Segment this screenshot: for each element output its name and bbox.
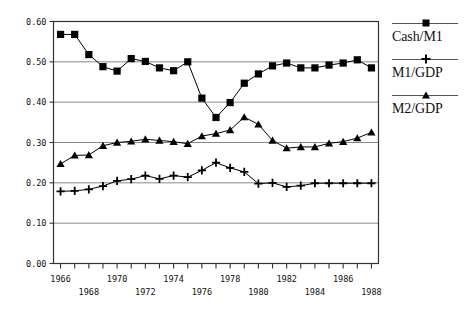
plus-marker-icon (127, 175, 135, 183)
square-marker-icon (368, 64, 375, 71)
x-tick-label-lower: 1980 (248, 287, 268, 297)
x-tick-label-lower: 1984 (305, 287, 325, 297)
square-marker-icon (212, 114, 219, 121)
plus-marker-icon (283, 183, 291, 191)
plus-marker-icon (353, 179, 361, 187)
chart-figure: 0.000.100.200.300.400.500.60 19661970197… (0, 0, 464, 318)
y-tick-label: 0.10 (26, 218, 46, 228)
square-marker-icon (227, 99, 234, 106)
plus-marker-icon (56, 187, 64, 195)
square-marker-icon (421, 18, 431, 28)
square-marker-icon (325, 61, 332, 68)
triangle-marker-icon (240, 113, 248, 120)
plus-marker-icon (339, 179, 347, 187)
series-line (61, 117, 372, 164)
legend-swatch-m2-gdp (392, 90, 458, 100)
x-tick-label-lower: 1972 (135, 287, 155, 297)
square-marker-icon (184, 58, 191, 65)
x-tick-label-upper: 1974 (163, 274, 183, 284)
plus-marker-icon (155, 175, 163, 183)
plus-marker-icon (184, 173, 192, 181)
square-marker-icon (85, 51, 92, 58)
plus-marker-icon (85, 185, 93, 193)
triangle-marker-icon (56, 160, 64, 167)
plus-marker-icon (367, 179, 375, 187)
gridlines-group (54, 22, 379, 224)
x-tick-label-upper: 1982 (276, 274, 296, 284)
legend-label-m1-gdp: M1/GDP (392, 64, 464, 81)
y-tick-label: 0.30 (26, 138, 46, 148)
x-tick-label-upper: 1970 (107, 274, 127, 284)
series-cash-m1 (57, 31, 375, 121)
plus-marker-icon (421, 54, 431, 64)
x-tick-label-lower: 1976 (192, 287, 212, 297)
triangle-marker-icon (141, 135, 149, 142)
legend-swatch-cash-m1 (392, 18, 458, 28)
plus-marker-icon (170, 171, 178, 179)
square-marker-icon (198, 95, 205, 102)
legend-label-m2-gdp: M2/GDP (392, 100, 464, 117)
square-marker-icon (340, 59, 347, 66)
legend-entry-m2-gdp: M2/GDP (392, 90, 464, 117)
plus-marker-icon (311, 179, 319, 187)
triangle-marker-icon (254, 120, 262, 127)
series-line (61, 34, 372, 117)
square-marker-icon (170, 67, 177, 74)
x-tick-label-upper: 1966 (50, 274, 70, 284)
square-marker-icon (311, 64, 318, 71)
square-marker-icon (269, 62, 276, 69)
square-marker-icon (113, 68, 120, 75)
triangle-marker-icon (367, 129, 375, 136)
x-axis-ticks (61, 264, 372, 269)
plus-marker-icon (113, 177, 121, 185)
y-axis-tick-labels: 0.000.100.200.300.400.500.60 (26, 17, 46, 269)
y-tick-label: 0.20 (26, 178, 46, 188)
triangle-marker-icon (421, 90, 431, 100)
series-line (61, 163, 372, 192)
plus-marker-icon (226, 164, 234, 172)
y-tick-label: 0.40 (26, 97, 46, 107)
legend-swatch-m1-gdp (392, 54, 458, 64)
square-marker-icon (128, 55, 135, 62)
triangle-marker-icon (353, 134, 361, 141)
y-tick-label: 0.00 (26, 259, 46, 269)
square-marker-icon (57, 31, 64, 38)
x-tick-label-lower: 1968 (79, 287, 99, 297)
square-marker-icon (255, 70, 262, 77)
square-marker-icon (156, 64, 163, 71)
x-tick-label-upper: 1986 (333, 274, 353, 284)
legend-entry-cash-m1: Cash/M1 (392, 18, 464, 45)
plus-marker-icon (141, 171, 149, 179)
square-marker-icon (142, 58, 149, 65)
plus-marker-icon (212, 159, 220, 167)
square-marker-icon (354, 56, 361, 63)
x-tick-label-lower: 1988 (361, 287, 381, 297)
plus-marker-icon (71, 187, 79, 195)
plus-marker-icon (198, 166, 206, 174)
x-tick-label-upper: 1978 (220, 274, 240, 284)
square-marker-icon (99, 63, 106, 70)
square-marker-icon (283, 59, 290, 66)
square-marker-icon (71, 31, 78, 38)
series-m1-gdp (56, 159, 375, 196)
y-tick-label: 0.50 (26, 57, 46, 67)
data-series-layer (56, 31, 375, 196)
plus-marker-icon (325, 179, 333, 187)
y-tick-label: 0.60 (26, 17, 46, 27)
chart-legend: Cash/M1 M1/GDP M2/GDP (392, 18, 464, 126)
legend-entry-m1-gdp: M1/GDP (392, 54, 464, 81)
x-axis-tick-labels: 1966197019741978198219861968197219761980… (50, 274, 381, 297)
square-marker-icon (297, 64, 304, 71)
square-marker-icon (241, 80, 248, 87)
plus-marker-icon (268, 179, 276, 187)
legend-label-cash-m1: Cash/M1 (392, 28, 464, 45)
